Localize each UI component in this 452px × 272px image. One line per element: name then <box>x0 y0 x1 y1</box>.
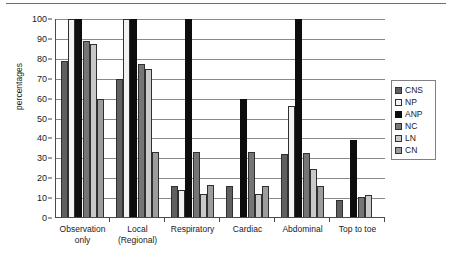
legend-item-label: CNS <box>405 86 423 95</box>
x-axis-category-label: Cardiac <box>220 224 275 235</box>
legend-swatch-icon <box>395 87 402 94</box>
x-axis-category-label: Respiratory <box>165 224 220 235</box>
x-axis-tick-mark <box>384 218 385 222</box>
y-axis-tick-label: 100 <box>32 15 47 24</box>
y-axis-tick-label: 40 <box>37 134 47 143</box>
x-axis-tick-mark <box>274 218 275 222</box>
legend-item-label: ANP <box>405 110 422 119</box>
x-axis-category-label-line: only <box>55 235 110 246</box>
x-axis-category-label-line: Respiratory <box>165 224 220 235</box>
x-axis-category-label-line: Abdominal <box>275 224 330 235</box>
x-axis-category-label: Abdominal <box>275 224 330 235</box>
legend-item-cns[interactable]: CNS <box>395 84 432 96</box>
y-axis-tick-mark <box>48 218 52 219</box>
y-axis-tick-label: 50 <box>37 114 47 123</box>
legend-item-np[interactable]: NP <box>395 96 432 108</box>
legend-item-ln[interactable]: LN <box>395 132 432 144</box>
x-axis-tick-mark <box>329 218 330 222</box>
legend-item-label: CN <box>405 146 417 155</box>
legend-item-label: LN <box>405 134 416 143</box>
x-axis-category-label: Observationonly <box>55 224 110 246</box>
y-axis-tick-label: 30 <box>37 154 47 163</box>
y-axis-tick-mark <box>48 178 52 179</box>
x-axis-category-label: Top to toe <box>330 224 385 235</box>
legend-swatch-icon <box>395 123 402 130</box>
x-axis-tick-mark <box>109 218 110 222</box>
y-axis-tick-mark <box>48 158 52 159</box>
y-axis-tick-mark <box>48 118 52 119</box>
x-axis-category-label-line: Top to toe <box>330 224 385 235</box>
y-axis-tick-label: 70 <box>37 74 47 83</box>
y-axis-tick-mark <box>48 19 52 20</box>
x-axis-category-label: Local(Regional) <box>110 224 165 246</box>
y-axis-tick-label: 90 <box>37 34 47 43</box>
x-axis-category-label-line: Local <box>110 224 165 235</box>
legend-swatch-icon <box>395 135 402 142</box>
legend-item-anp[interactable]: ANP <box>395 108 432 120</box>
y-axis-tick-mark <box>48 58 52 59</box>
x-axis-category-labels: ObservationonlyLocal(Regional)Respirator… <box>55 224 385 254</box>
legend-item-label: NC <box>405 122 417 131</box>
x-axis-tick-mark <box>219 218 220 222</box>
y-axis-tick-label: 20 <box>37 174 47 183</box>
x-axis-tick-mark <box>164 218 165 222</box>
y-axis-tick-mark <box>48 38 52 39</box>
x-axis-category-label-line: Cardiac <box>220 224 275 235</box>
y-axis-tick-label: 80 <box>37 54 47 63</box>
legend-swatch-icon <box>395 147 402 154</box>
legend-item-nc[interactable]: NC <box>395 120 432 132</box>
legend-swatch-icon <box>395 111 402 118</box>
y-axis-tick-label: 10 <box>37 194 47 203</box>
y-axis-tick-label: 0 <box>42 214 47 223</box>
y-axis-tick-mark <box>48 138 52 139</box>
x-axis-category-label-line: (Regional) <box>110 235 165 246</box>
y-axis-tick-label: 60 <box>37 94 47 103</box>
page-top-rule <box>6 3 446 4</box>
y-axis-tick-mark <box>48 198 52 199</box>
chart-page: percentages 0102030405060708090100 Obser… <box>0 0 452 272</box>
x-axis-category-label-line: Observation <box>55 224 110 235</box>
chart-legend: CNSNPANPNCLNCN <box>391 80 436 160</box>
plot-area <box>55 19 385 218</box>
legend-item-cn[interactable]: CN <box>395 144 432 156</box>
y-axis-tick-mark <box>48 78 52 79</box>
y-axis-tick-mark <box>48 98 52 99</box>
plot-frame <box>55 19 385 218</box>
legend-item-label: NP <box>405 98 417 107</box>
y-axis-tick-labels: 0102030405060708090100 <box>20 19 52 218</box>
legend-swatch-icon <box>395 99 402 106</box>
